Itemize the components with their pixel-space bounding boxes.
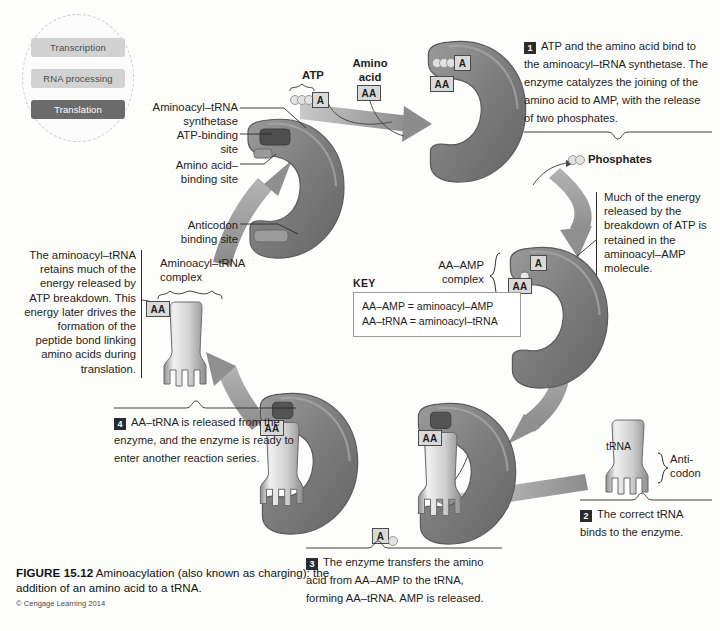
key-line-aa-trna: AA–tRNA = aminoacyl–tRNA <box>362 314 512 329</box>
step-4-text: AA–tRNA is released from the enzyme, and… <box>114 416 294 464</box>
anticodon-brace <box>656 452 670 484</box>
adenosine-tag: A <box>312 92 329 108</box>
label-atp-binding-site: ATP-binding site <box>130 128 238 156</box>
leader-aa-site-line <box>238 150 282 172</box>
amino-acid-tag: AA <box>357 85 381 101</box>
label-trna: tRNA <box>606 440 652 454</box>
figure-caption: FIGURE 15.12 Aminoacylation (also known … <box>16 565 346 608</box>
aminoacyl-trna-complex: AA <box>156 300 218 390</box>
adenosine-tag: A <box>454 55 471 71</box>
note-energy-retained: Much of the energy released by the break… <box>604 190 710 275</box>
amino-acid-tag: AA <box>146 301 170 317</box>
label-amino-acid-binding-site: Amino acid– binding site <box>120 158 238 186</box>
step-4-callout: 4AA–tRNA is released from the enzyme, an… <box>114 400 296 466</box>
enzyme-with-atp-and-aa: A AA <box>418 34 530 186</box>
leader-anticodon-site-line <box>238 218 304 242</box>
step-1-callout: 1ATP and the amino acid bind to the amin… <box>524 36 712 139</box>
step-2-text: The correct tRNA binds to the enzyme. <box>580 508 683 538</box>
label-phosphates: Phosphates <box>588 152 688 166</box>
key-line-aa-amp: AA–AMP = aminoacyl–AMP <box>362 299 512 314</box>
figure-number: FIGURE 15.12 <box>16 566 93 579</box>
key-legend: KEY AA–AMP = aminoacyl–AMP AA–tRNA = ami… <box>353 277 521 337</box>
figure-canvas: Transcription RNA processing Translation… <box>0 0 720 631</box>
energy-note-bracket-left <box>141 250 142 378</box>
step-3-brace <box>306 540 502 549</box>
label-amino-acid: Amino acid <box>342 56 398 84</box>
note-energy-drives: The aminoacyl–tRNA retains much of the e… <box>22 248 136 376</box>
step-4-number: 4 <box>114 418 126 430</box>
pathway-locator: Transcription RNA processing Translation <box>22 14 134 142</box>
step-2-number: 2 <box>580 510 592 522</box>
step-2-callout: 2The correct tRNA binds to the enzyme. <box>580 492 712 540</box>
step-1-number: 1 <box>524 42 536 54</box>
enzyme-with-trna-bound <box>408 396 520 548</box>
label-anticodon: Anti- codon <box>670 452 718 480</box>
locator-item-transcription: Transcription <box>31 38 125 57</box>
adenosine-tag: A <box>530 255 547 271</box>
step-2-brace <box>580 492 712 501</box>
trna-free: tRNA <box>598 418 660 498</box>
label-atp: ATP <box>288 68 338 82</box>
step-1-brace <box>524 130 712 139</box>
phosphates-group: Phosphates <box>568 152 698 168</box>
key-title: KEY <box>353 277 521 289</box>
aminoacyl-trna-brace <box>156 288 224 300</box>
amino-acid-tag: AA <box>430 76 454 92</box>
figure-credit: © Cengage Learning 2014 <box>16 599 346 608</box>
label-anticodon-binding-site: Anticodon binding site <box>126 218 238 246</box>
locator-item-translation: Translation <box>31 100 125 119</box>
leader-atp-site-line <box>238 128 278 142</box>
step-4-brace <box>114 400 296 409</box>
key-box: AA–AMP = aminoacyl–AMP AA–tRNA = aminoac… <box>353 292 521 337</box>
step-1-text: ATP and the amino acid bind to the amino… <box>524 40 708 124</box>
atp-molecule: A <box>290 92 346 110</box>
label-synthetase: Aminoacyl–tRNA synthetase <box>130 100 238 128</box>
amino-acid-tag: AA <box>418 430 442 446</box>
atp-brace <box>288 82 340 92</box>
label-aminoacyl-trna-complex: Aminoacyl–tRNA complex <box>160 256 268 284</box>
locator-item-rna-processing: RNA processing <box>31 69 125 88</box>
phosphate-dot <box>575 155 585 165</box>
